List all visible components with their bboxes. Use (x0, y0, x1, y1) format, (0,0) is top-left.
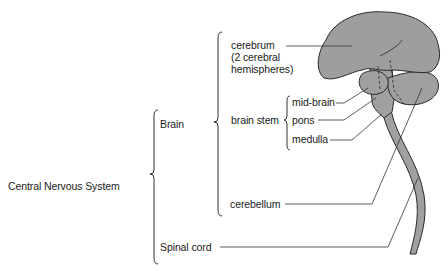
cns-brace (150, 110, 158, 264)
label-brain-stem: brain stem (231, 115, 279, 126)
cerebrum-shape (318, 12, 439, 79)
brain-stem-brace (284, 96, 290, 150)
leader-medulla (330, 114, 382, 140)
label-spinal-cord: Spinal cord (160, 242, 211, 253)
cerebellum-shape (388, 72, 439, 105)
label-cerebrum-line3: hemispheres) (231, 64, 293, 75)
brain-brace (214, 32, 222, 216)
label-pons: pons (292, 115, 314, 126)
brain-illustration (0, 0, 448, 271)
label-cerebrum: cerebrum (231, 40, 275, 51)
label-cerebrum-line2: (2 cerebral (231, 52, 280, 63)
label-medulla: medulla (292, 134, 328, 145)
cns-diagram: Central Nervous System Brain Spinal cord… (0, 0, 448, 271)
label-mid-brain: mid-brain (292, 97, 335, 108)
label-cerebellum: cerebellum (230, 199, 280, 210)
spinal-cord-shape (384, 110, 425, 254)
label-brain: Brain (160, 119, 184, 130)
leader-spinal-cord (220, 178, 418, 247)
label-central-nervous-system: Central Nervous System (8, 181, 120, 192)
